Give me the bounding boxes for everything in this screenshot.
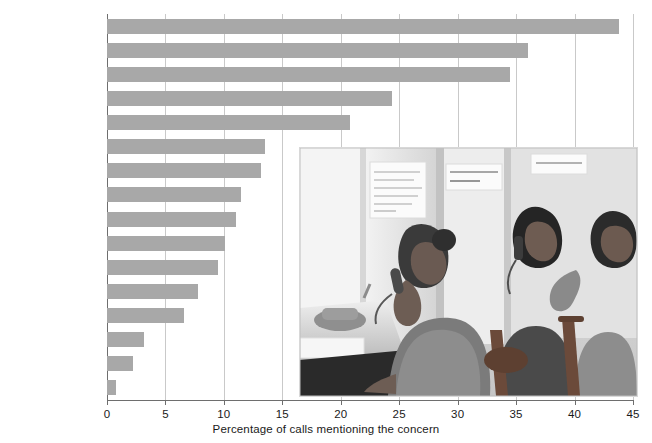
bar <box>107 236 225 251</box>
bar-row: Peer relationships <box>107 38 633 62</box>
x-tick-label-20: 20 <box>334 408 347 420</box>
bar <box>107 212 236 227</box>
x-axis-title: Percentage of calls mentioning the conce… <box>0 423 652 435</box>
photo-artwork <box>300 148 637 396</box>
bar <box>107 308 184 323</box>
x-tick-35 <box>516 400 517 405</box>
x-tick-label-25: 25 <box>393 408 406 420</box>
crisis-hotline-call-center-photo <box>300 148 637 396</box>
bar <box>107 356 133 371</box>
bar <box>107 163 261 178</box>
x-tick-10 <box>224 400 225 405</box>
bar <box>107 115 350 130</box>
bar-row: Family problems <box>107 14 633 38</box>
x-tick-label-10: 10 <box>217 408 230 420</box>
x-tick-5 <box>165 400 166 405</box>
bar-row: Drugs and alcohol <box>107 111 633 135</box>
x-tick-20 <box>341 400 342 405</box>
x-tick-30 <box>458 400 459 405</box>
x-tick-label-45: 45 <box>626 408 639 420</box>
x-tick-label-5: 5 <box>162 408 169 420</box>
bar <box>107 332 144 347</box>
bar <box>107 43 528 58</box>
bar-row: Just to talk <box>107 86 633 110</box>
bar <box>107 284 198 299</box>
bar <box>107 380 116 395</box>
x-tick-label-35: 35 <box>510 408 523 420</box>
x-tick-15 <box>282 400 283 405</box>
bar <box>107 19 619 34</box>
bar <box>107 139 265 154</box>
x-axis-line <box>107 400 633 401</box>
x-tick-0 <box>107 400 108 405</box>
x-tick-label-0: 0 <box>104 408 111 420</box>
x-tick-45 <box>633 400 634 405</box>
bar-chart-figure: Family problemsPeer relationshipsSelf-es… <box>0 0 652 443</box>
bar-row: Self-esteem <box>107 62 633 86</box>
x-tick-25 <box>399 400 400 405</box>
bar <box>107 187 241 202</box>
x-tick-40 <box>575 400 576 405</box>
bar <box>107 91 392 106</box>
x-tick-label-40: 40 <box>568 408 581 420</box>
x-tick-label-30: 30 <box>451 408 464 420</box>
bar <box>107 67 510 82</box>
bar <box>107 260 218 275</box>
x-tick-label-15: 15 <box>276 408 289 420</box>
